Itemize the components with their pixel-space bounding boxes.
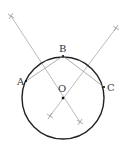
arc-mark-icon [47,113,53,119]
point-b [62,55,64,57]
bisector-ab-line [11,16,80,122]
label-o: O [58,83,66,94]
chord-bc [63,56,104,87]
circle-center-diagram: A B C O [0,0,127,149]
bisector-bc-line [50,28,116,116]
arc-mark-icon [8,13,14,19]
arc-mark-icon [113,25,119,31]
label-b: B [59,43,66,54]
arc-mark-icon [77,119,83,125]
point-a [25,80,27,82]
point-c [103,86,105,88]
point-o [62,97,64,99]
chord-ab [26,56,63,81]
label-c: C [107,82,115,93]
label-a: A [16,76,25,87]
